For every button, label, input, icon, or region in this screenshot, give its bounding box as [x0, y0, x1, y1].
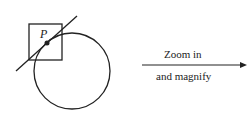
arrow-label-bottom: and magnify: [156, 70, 211, 82]
arrow-head-icon: [240, 62, 247, 68]
point-label: P: [40, 27, 47, 42]
diagram-canvas: [0, 0, 252, 115]
arrow-label-top: Zoom in: [164, 48, 202, 60]
